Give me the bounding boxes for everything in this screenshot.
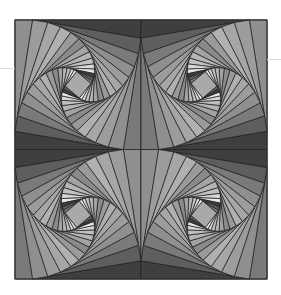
quadrant-top-right xyxy=(141,20,267,150)
whirling-squares-artwork xyxy=(0,0,281,295)
quadrant-bottom-left xyxy=(15,150,141,280)
quadrant-top-left xyxy=(15,20,141,150)
quadrants-group xyxy=(15,20,267,279)
quadrant-bottom-right xyxy=(141,150,267,280)
guide-line xyxy=(267,59,281,60)
guide-line xyxy=(0,68,15,69)
